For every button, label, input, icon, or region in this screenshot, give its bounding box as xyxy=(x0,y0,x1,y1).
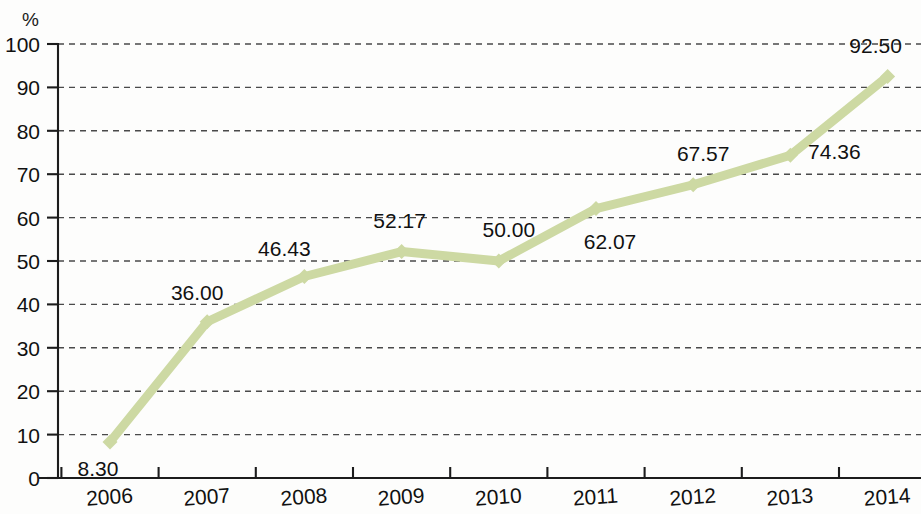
y-axis-label-90: 90 xyxy=(17,76,40,99)
data-point-label-2006: 8.30 xyxy=(78,457,119,480)
data-point-label-2011: 62.07 xyxy=(584,230,637,253)
line-chart-figure: 0102030405060708090100 20062007200820092… xyxy=(0,0,921,514)
data-point-label-2009: 52.17 xyxy=(373,209,426,232)
x-axis-label-2011: 2011 xyxy=(572,483,619,509)
x-axis-label-2013: 2013 xyxy=(766,483,814,509)
y-axis-label-30: 30 xyxy=(17,337,40,360)
y-axis-label-80: 80 xyxy=(17,120,40,143)
y-axis-label-60: 60 xyxy=(17,207,40,230)
y-axis-label-20: 20 xyxy=(17,380,40,403)
y-axis-label-10: 10 xyxy=(17,424,40,447)
chart-canvas: 0102030405060708090100 20062007200820092… xyxy=(0,0,921,514)
y-axis-unit-label: % xyxy=(22,9,39,30)
x-axis-label-2012: 2012 xyxy=(669,483,717,509)
y-axis-label-0: 0 xyxy=(28,467,40,490)
y-axis-label-70: 70 xyxy=(17,163,40,186)
y-axis-tick-labels: 0102030405060708090100 xyxy=(5,33,40,490)
data-point-label-2013: 74.36 xyxy=(808,140,861,163)
data-point-markers xyxy=(103,69,896,449)
y-axis-label-50: 50 xyxy=(17,250,40,273)
data-point-label-2007: 36.00 xyxy=(171,281,224,304)
x-axis-label-2008: 2008 xyxy=(280,483,328,509)
y-axis-label-100: 100 xyxy=(5,33,40,56)
data-point-label-2008: 46.43 xyxy=(258,237,311,260)
x-axis-label-2007: 2007 xyxy=(183,483,231,509)
data-point-label-2012: 67.57 xyxy=(677,142,730,165)
x-axis-tick-labels: 200620072008200920102011201220132014 xyxy=(85,483,911,509)
x-axis-label-2010: 2010 xyxy=(474,483,522,509)
x-axis-label-2009: 2009 xyxy=(377,483,425,509)
x-axis-label-2014: 2014 xyxy=(863,483,912,509)
data-point-label-2010: 50.00 xyxy=(483,218,536,241)
y-axis-label-40: 40 xyxy=(17,293,40,316)
x-axis-label-2006: 2006 xyxy=(85,483,133,509)
data-point-label-2014: 92.50 xyxy=(849,34,902,57)
